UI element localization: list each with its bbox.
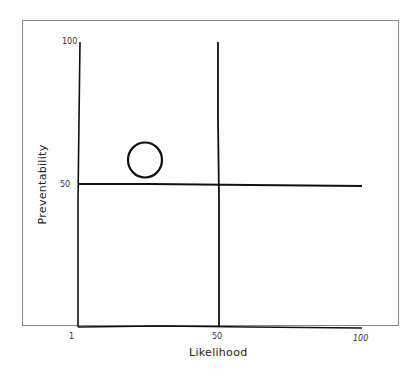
- x-axis-label: Likelihood: [189, 346, 247, 359]
- data-point-circle: [128, 143, 162, 178]
- horizontal-divider-50: [78, 184, 362, 186]
- x-axis-line: [78, 326, 362, 328]
- y-tick-50: 50: [60, 180, 70, 189]
- x-tick-1: 1: [69, 332, 74, 341]
- quadrant-chart: [0, 0, 418, 386]
- y-tick-100: 100: [62, 37, 77, 46]
- x-tick-50: 50: [212, 332, 222, 341]
- x-tick-100: 100: [353, 334, 368, 343]
- y-axis-label: Preventability: [36, 145, 49, 225]
